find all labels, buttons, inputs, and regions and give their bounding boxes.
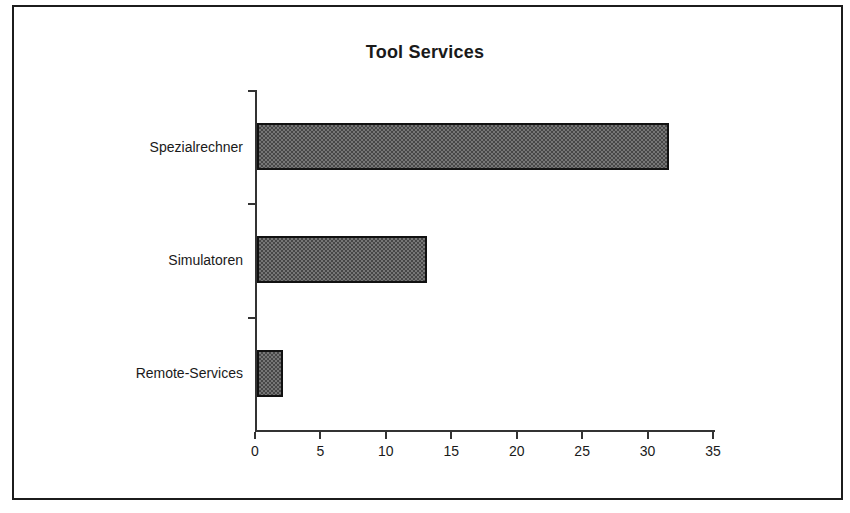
x-axis-tick: [254, 432, 256, 439]
bar-spezialrechner: [257, 123, 669, 170]
category-label: Simulatoren: [40, 203, 243, 316]
x-axis-tick-label: 0: [251, 443, 259, 459]
x-axis-tick-label: 5: [317, 443, 325, 459]
bar-remote-services: [257, 350, 283, 397]
x-axis-tick: [450, 432, 452, 439]
category-label: Remote-Services: [40, 317, 243, 430]
y-axis-tick: [248, 203, 257, 205]
category-axis-labels: SpezialrechnerSimulatorenRemote-Services: [40, 90, 243, 430]
page: { "figure": { "background": "#ffffff", "…: [0, 0, 850, 513]
x-axis-tick-label: 15: [443, 443, 459, 459]
x-axis-tick: [712, 432, 714, 439]
x-axis-tick: [385, 432, 387, 439]
plot-area: [255, 90, 715, 432]
x-axis-tick-label: 35: [705, 443, 721, 459]
y-axis-tick: [248, 317, 257, 319]
x-axis-tick: [581, 432, 583, 439]
x-axis-tick-label: 30: [640, 443, 656, 459]
x-axis-tick-label: 20: [509, 443, 525, 459]
x-axis-tick-label: 10: [378, 443, 394, 459]
chart-title: Tool Services: [0, 42, 850, 63]
x-axis-tick: [319, 432, 321, 439]
bar-row: [257, 203, 715, 316]
x-axis-tick: [647, 432, 649, 439]
x-axis-tick-label: 25: [574, 443, 590, 459]
bar-row: [257, 317, 715, 430]
x-axis-tick: [516, 432, 518, 439]
x-axis: 05101520253035: [255, 432, 713, 466]
bar-simulatoren: [257, 236, 427, 283]
category-label: Spezialrechner: [40, 90, 243, 203]
y-axis-tick: [248, 90, 257, 92]
bar-row: [257, 90, 715, 203]
